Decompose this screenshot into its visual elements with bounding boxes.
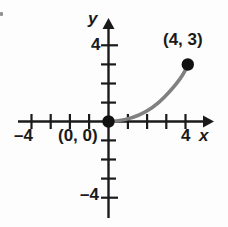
endpoint-dot bbox=[182, 58, 194, 70]
x-tick-label-negative-4: –4 bbox=[14, 127, 33, 144]
y-tick-label-4: 4 bbox=[91, 36, 100, 53]
curve-path bbox=[109, 65, 188, 122]
x-axis-label: x bbox=[199, 127, 208, 144]
x-tick-label-4: 4 bbox=[181, 127, 190, 144]
origin-point-dot bbox=[102, 115, 114, 127]
graph-figure: y x 4 –4 –4 4 (0, 0) (4, 3) bbox=[0, 0, 228, 227]
origin-point-label: (0, 0) bbox=[58, 127, 98, 144]
y-axis-label: y bbox=[88, 10, 97, 27]
y-axis-arrowhead bbox=[103, 18, 115, 29]
endpoint-label: (4, 3) bbox=[163, 31, 203, 48]
y-tick-label-negative-4: –4 bbox=[80, 186, 99, 203]
